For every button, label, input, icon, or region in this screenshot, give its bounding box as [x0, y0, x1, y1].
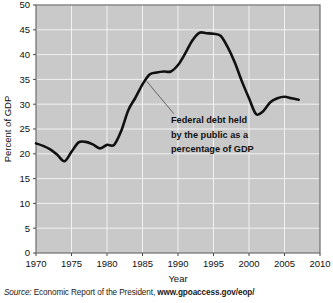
x-axis-title: Year: [168, 273, 187, 284]
y-axis-title: Percent of GDP: [2, 96, 13, 163]
source-url: www.gpoaccess.gov/eop/: [157, 288, 254, 297]
y-axis-tick-label: 20: [19, 148, 30, 159]
y-axis-tick-label: 25: [19, 123, 30, 134]
source-note: Source: Economic Report of the President…: [4, 288, 254, 297]
y-axis-tick-label: 0: [25, 247, 30, 258]
x-axis-tick-label: 2005: [274, 258, 295, 269]
y-axis-tick-label: 15: [19, 173, 30, 184]
x-axis-tick-label: 1970: [25, 258, 46, 269]
source-body: Economic Report of the President,: [32, 288, 158, 297]
x-axis-tick-label: 1990: [167, 258, 188, 269]
x-axis-tick-label: 2000: [238, 258, 259, 269]
x-axis-tick-label: 1985: [132, 258, 153, 269]
y-axis-tick-label: 35: [19, 74, 30, 85]
y-axis-tick-label: 5: [25, 223, 30, 234]
x-axis-tick-label: 1995: [203, 258, 224, 269]
debt-gdp-line-chart: Federal debt heldby the public as aperce…: [0, 0, 333, 303]
y-axis-tick-label: 50: [19, 0, 30, 10]
x-axis-tick-label: 2010: [309, 258, 330, 269]
y-axis-tick-label: 10: [19, 198, 30, 209]
annotation-line-2: by the public as a: [171, 130, 249, 140]
annotation-line-3: percentage of GDP: [171, 144, 254, 154]
annotation-line-1: Federal debt held: [171, 115, 247, 125]
y-axis-tick-label: 40: [19, 49, 30, 60]
y-axis-tick-label: 30: [19, 99, 30, 110]
x-axis-tick-label: 1975: [61, 258, 82, 269]
y-axis-tick-label: 45: [19, 24, 30, 35]
x-axis-tick-label: 1980: [96, 258, 117, 269]
source-label: Source:: [4, 288, 32, 297]
figure-container: Federal debt heldby the public as aperce…: [0, 0, 333, 303]
